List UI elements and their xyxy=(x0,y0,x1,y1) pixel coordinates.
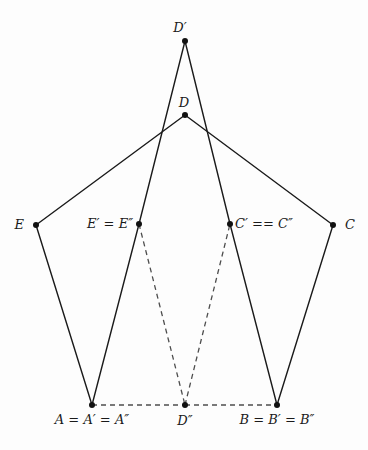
vertex-dot-D-prime xyxy=(182,38,188,44)
vertex-dot-D xyxy=(182,112,188,118)
point-label-c-prime: C′ == C″ xyxy=(235,217,293,230)
edge-Eprime-Ddprime xyxy=(139,224,185,405)
point-label-d: D xyxy=(179,96,189,109)
point-label-d-double-prime: D″ xyxy=(177,414,192,427)
point-label-d-prime: D′ xyxy=(173,21,186,34)
vertex-dot-D-dprime xyxy=(182,402,188,408)
edge-Ddprime-Cprime xyxy=(185,224,230,405)
geometry-canvas xyxy=(0,0,368,450)
point-label-c: C xyxy=(345,218,355,231)
edge-Dprime-Cprime xyxy=(185,41,230,224)
dashed-edges xyxy=(92,224,277,405)
vertex-dot-E-prime xyxy=(136,221,142,227)
geometry-figure: D′ D E E′ = E″ C′ == C″ C A = A′ = A″ D″… xyxy=(0,0,368,450)
vertex-dot-A xyxy=(89,402,95,408)
edge-Dprime-Eprime xyxy=(139,41,185,224)
vertex-dot-C xyxy=(330,222,336,228)
point-label-b: B = B′ = B″ xyxy=(240,413,315,426)
point-label-e-prime: E′ = E″ xyxy=(87,217,133,230)
edge-Cprime-B xyxy=(230,224,277,405)
edge-E-A xyxy=(36,225,92,405)
edge-C-B xyxy=(277,225,333,405)
vertex-dot-C-prime xyxy=(227,221,233,227)
vertex-dot-B xyxy=(274,402,280,408)
point-label-e: E xyxy=(15,218,25,231)
vertex-dot-E xyxy=(33,222,39,228)
point-label-a: A = A′ = A″ xyxy=(55,413,129,426)
edge-Eprime-A xyxy=(92,224,139,405)
